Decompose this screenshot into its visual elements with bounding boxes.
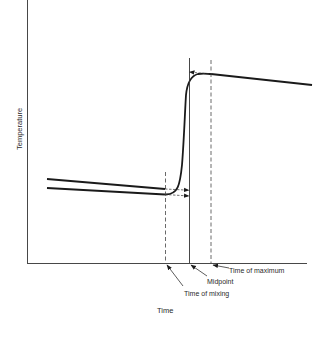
- temperature-time-diagram: Time of maximum Midpoint Time of mixing …: [0, 0, 333, 338]
- time-of-maximum-label: Time of maximum: [229, 267, 285, 274]
- y-axis-label: Temperature: [15, 108, 24, 150]
- axes: [27, 0, 307, 264]
- midpoint-label: Midpoint: [207, 278, 234, 286]
- upper-baseline-line: [47, 179, 165, 189]
- cooling-line: [211, 74, 312, 85]
- temperature-rise-curve: [165, 74, 211, 195]
- x-axis-label: Time: [157, 306, 173, 315]
- midpoint-leader: [191, 265, 207, 276]
- time-of-mixing-label: Time of mixing: [184, 290, 229, 298]
- time-markers: [166, 58, 212, 263]
- pre-mixing-lines: [47, 179, 165, 195]
- mixing-leader: [167, 265, 183, 286]
- lower-baseline-line: [47, 188, 165, 195]
- maximum-leader: [213, 265, 229, 268]
